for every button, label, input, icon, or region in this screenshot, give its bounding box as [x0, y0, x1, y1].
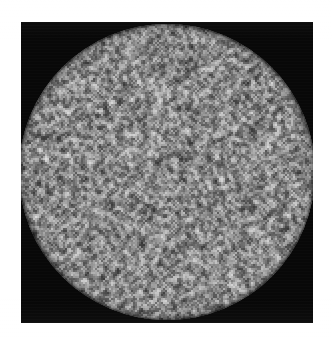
black-square-plate: [21, 22, 313, 323]
speckle-noise-canvas: [21, 24, 313, 320]
figure-root: [0, 0, 332, 338]
circular-noise-aperture: [21, 24, 313, 320]
